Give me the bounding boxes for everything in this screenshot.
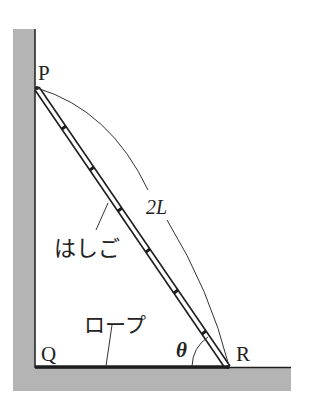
label-angle: θ: [176, 338, 187, 362]
ladder-diagram: P Q R 2L はしご ロープ θ: [0, 0, 313, 402]
angle-arc: [192, 337, 208, 366]
ladder-leader: [96, 203, 108, 230]
label-p: P: [38, 61, 50, 85]
label-q: Q: [41, 342, 56, 366]
label-r: R: [236, 342, 250, 366]
label-length: 2L: [146, 196, 167, 218]
label-ladder: はしご: [54, 236, 120, 261]
wall: [13, 29, 35, 391]
label-rope: ロープ: [84, 313, 146, 337]
floor: [13, 368, 291, 391]
